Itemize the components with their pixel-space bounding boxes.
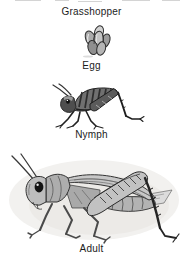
lifecycle-diagram: Grasshopper Egg bbox=[0, 0, 183, 265]
diagram-title: Grasshopper bbox=[0, 6, 183, 17]
stage-label-adult: Adult bbox=[0, 243, 183, 254]
stage-label-nymph: Nymph bbox=[0, 129, 183, 140]
cropped-text-remnant bbox=[0, 0, 183, 3]
egg-cluster-illustration bbox=[78, 24, 114, 58]
adult-illustration bbox=[4, 150, 180, 246]
stage-label-egg: Egg bbox=[0, 60, 183, 71]
nymph-illustration bbox=[46, 83, 146, 131]
